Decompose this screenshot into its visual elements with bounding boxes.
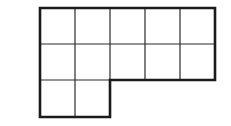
grid-diagram — [0, 0, 231, 126]
inner-grid-lines — [40, 8, 215, 117]
outer-border — [40, 8, 215, 117]
